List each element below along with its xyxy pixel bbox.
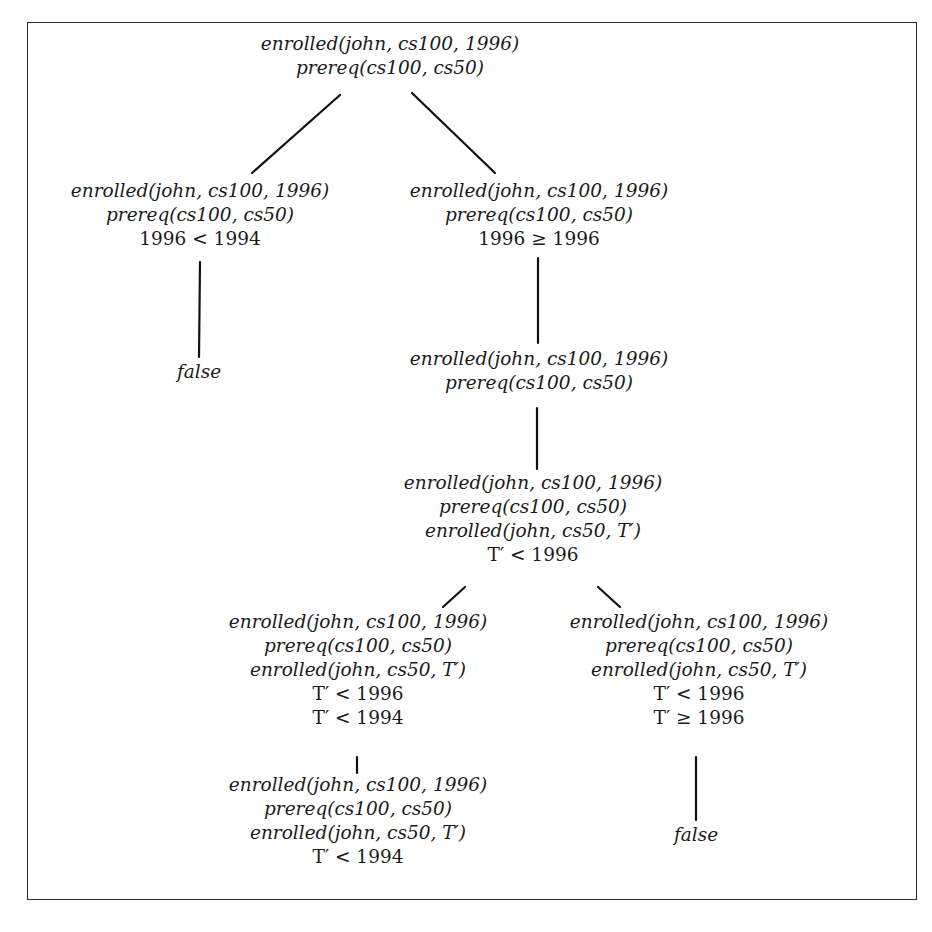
tree-node-n4: enrolled(john, cs100, 1996)prereq(cs100,… xyxy=(410,347,668,395)
node-line: T′ < 1994 xyxy=(229,845,487,869)
node-line: prereq(cs100, cs50) xyxy=(410,203,668,227)
node-line: enrolled(john, cs100, 1996) xyxy=(404,471,662,495)
node-line: prereq(cs100, cs50) xyxy=(570,634,828,658)
figure-frame xyxy=(27,22,917,900)
node-line: prereq(cs100, cs50) xyxy=(410,371,668,395)
node-line: enrolled(john, cs50, T′) xyxy=(404,519,662,543)
node-line: false xyxy=(177,360,221,384)
tree-node-n0: enrolled(john, cs100, 1996)prereq(cs100,… xyxy=(261,32,519,80)
node-line: 1996 < 1994 xyxy=(71,227,329,251)
node-line: enrolled(john, cs100, 1996) xyxy=(71,179,329,203)
node-line: enrolled(john, cs50, T′) xyxy=(570,658,828,682)
node-line: false xyxy=(674,823,718,847)
node-line: T′ < 1996 xyxy=(404,543,662,567)
node-line: enrolled(john, cs100, 1996) xyxy=(410,347,668,371)
tree-node-n9: false xyxy=(674,823,718,847)
node-line: T′ ≥ 1996 xyxy=(570,706,828,730)
tree-node-n2: enrolled(john, cs100, 1996)prereq(cs100,… xyxy=(410,179,668,251)
node-line: enrolled(john, cs100, 1996) xyxy=(410,179,668,203)
node-line: prereq(cs100, cs50) xyxy=(229,634,487,658)
node-line: T′ < 1996 xyxy=(570,682,828,706)
tree-node-n7: enrolled(john, cs100, 1996)prereq(cs100,… xyxy=(570,610,828,730)
node-line: prereq(cs100, cs50) xyxy=(229,797,487,821)
tree-node-n1: enrolled(john, cs100, 1996)prereq(cs100,… xyxy=(71,179,329,251)
node-line: prereq(cs100, cs50) xyxy=(71,203,329,227)
node-line: T′ < 1996 xyxy=(229,682,487,706)
node-line: T′ < 1994 xyxy=(229,706,487,730)
tree-node-n8: enrolled(john, cs100, 1996)prereq(cs100,… xyxy=(229,773,487,869)
node-line: prereq(cs100, cs50) xyxy=(261,56,519,80)
tree-node-n6: enrolled(john, cs100, 1996)prereq(cs100,… xyxy=(229,610,487,730)
node-line: enrolled(john, cs50, T′) xyxy=(229,821,487,845)
tree-node-n3: false xyxy=(177,360,221,384)
node-line: enrolled(john, cs50, T′) xyxy=(229,658,487,682)
node-line: enrolled(john, cs100, 1996) xyxy=(261,32,519,56)
node-line: prereq(cs100, cs50) xyxy=(404,495,662,519)
node-line: 1996 ≥ 1996 xyxy=(410,227,668,251)
node-line: enrolled(john, cs100, 1996) xyxy=(229,773,487,797)
node-line: enrolled(john, cs100, 1996) xyxy=(229,610,487,634)
tree-node-n5: enrolled(john, cs100, 1996)prereq(cs100,… xyxy=(404,471,662,567)
node-line: enrolled(john, cs100, 1996) xyxy=(570,610,828,634)
